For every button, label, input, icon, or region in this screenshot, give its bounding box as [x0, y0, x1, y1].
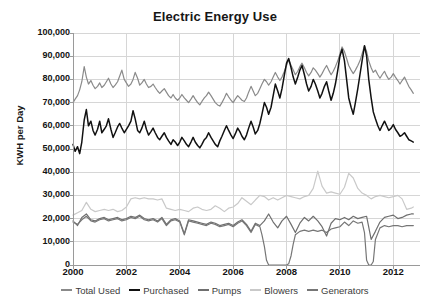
series-line-blowers: [73, 171, 413, 215]
x-tick-label: 2008: [257, 266, 317, 277]
plot-area: [0, 0, 430, 304]
series-line-pumps: [73, 214, 413, 240]
x-tick-label: 2012: [363, 266, 423, 277]
legend-item-generators[interactable]: Generators: [307, 285, 369, 296]
x-tick-label: 2006: [203, 266, 263, 277]
legend-swatch-icon: [307, 289, 318, 291]
legend-label: Purchased: [143, 285, 188, 296]
legend-swatch-icon: [198, 289, 209, 291]
legend-label: Total Used: [75, 285, 120, 296]
legend-swatch-icon: [129, 289, 140, 291]
legend-item-pumps[interactable]: Pumps: [198, 285, 242, 296]
legend-swatch-icon: [250, 289, 261, 291]
x-tick-label: 2010: [310, 266, 370, 277]
legend-item-total-used[interactable]: Total Used: [61, 285, 120, 296]
legend-item-purchased[interactable]: Purchased: [129, 285, 188, 296]
electric-energy-use-chart: Electric Energy Use KWH per Day 100,0009…: [0, 0, 430, 304]
x-axis-tick-labels: 2000200220042006200820102012: [0, 266, 430, 282]
legend-label: Blowers: [264, 285, 298, 296]
x-tick-label: 2000: [43, 266, 103, 277]
legend-label: Generators: [321, 285, 369, 296]
legend-label: Pumps: [212, 285, 242, 296]
series-line-purchased: [73, 46, 413, 154]
chart-legend: Total UsedPurchasedPumpsBlowersGenerator…: [0, 281, 430, 299]
legend-swatch-icon: [61, 289, 72, 291]
x-tick-label: 2004: [150, 266, 210, 277]
legend-item-blowers[interactable]: Blowers: [250, 285, 298, 296]
series-lines: [73, 46, 413, 265]
series-line-generators: [73, 216, 413, 265]
x-tick-label: 2002: [96, 266, 156, 277]
series-line-total-used: [73, 46, 413, 106]
